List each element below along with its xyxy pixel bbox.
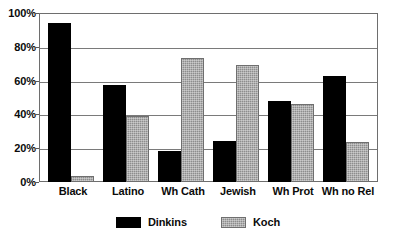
bar-dinkins-black — [48, 23, 71, 182]
y-tick-label: 60% — [2, 76, 36, 87]
legend-item-dinkins: Dinkins — [116, 216, 187, 228]
bar-dinkins-latino — [103, 85, 126, 182]
bar-koch-black — [71, 176, 94, 182]
bar-koch-wh-prot — [291, 104, 314, 182]
y-tick-label: 80% — [2, 42, 36, 53]
bar-koch-wh-cath — [181, 58, 204, 182]
bar-koch-wh-no-rel — [346, 142, 369, 182]
bar-chart: 100% 80% 60% 40% 20% 0% — [0, 0, 396, 245]
legend-item-koch: Koch — [221, 216, 280, 228]
x-axis: Black Latino Wh Cath Jewish Wh Prot Wh n… — [39, 185, 378, 201]
legend: Dinkins Koch — [0, 216, 396, 228]
legend-label-koch: Koch — [253, 216, 280, 228]
legend-swatch-koch-icon — [221, 217, 246, 228]
legend-label-dinkins: Dinkins — [148, 216, 187, 228]
y-tick-label: 20% — [2, 143, 36, 154]
y-tick-mark — [35, 182, 39, 183]
bar-dinkins-wh-cath — [158, 151, 181, 182]
y-tick-label: 0% — [2, 177, 36, 188]
bar-koch-jewish — [236, 65, 259, 182]
x-tick-label-wh-no-rel: Wh no Rel — [310, 185, 386, 198]
bar-dinkins-wh-prot — [268, 101, 291, 182]
bar-dinkins-wh-no-rel — [323, 76, 346, 182]
bar-koch-latino — [126, 116, 149, 182]
y-tick-label: 40% — [2, 109, 36, 120]
bar-dinkins-jewish — [213, 141, 236, 182]
legend-swatch-dinkins-icon — [116, 217, 141, 228]
y-tick-label: 100% — [2, 8, 36, 19]
bars-layer — [39, 13, 378, 182]
y-axis: 100% 80% 60% 40% 20% 0% — [0, 0, 36, 245]
